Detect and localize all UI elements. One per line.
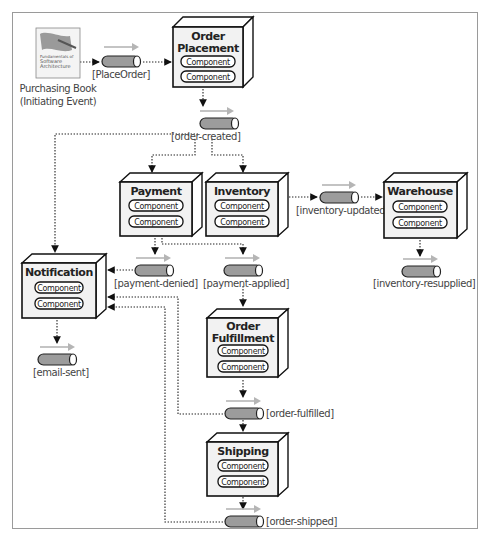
queue-inventory-resupplied: [inventory-resupplied] <box>373 255 476 289</box>
initiating-event-sublabel: (Initiating Event) <box>20 96 97 107</box>
queue-email-sent: [email-sent] <box>33 343 89 378</box>
event-label-inventory-resupplied: [inventory-resupplied] <box>373 278 476 289</box>
event-label-email-sent: [email-sent] <box>33 367 89 378</box>
queue-inventory-updated: [inventory-updated] <box>296 181 389 216</box>
component-label: Component <box>186 73 230 82</box>
component-label: Component <box>37 284 81 293</box>
queue-payment-denied: [payment-denied] <box>114 254 198 289</box>
component-label: Component <box>398 203 442 212</box>
processor-order-fulfillment: Order Fulfillment Component Component <box>207 309 288 377</box>
queue-order-created: [order-created] <box>171 107 241 142</box>
queue-place-order: [PlaceOrder] <box>92 43 151 80</box>
component-label: Component <box>220 218 264 227</box>
processor-notification: Notification Component Component <box>22 254 106 318</box>
queue-order-shipped: [order-shipped] <box>225 505 337 527</box>
processor-title: Inventory <box>214 185 270 198</box>
component-label: Component <box>134 218 178 227</box>
component-label: Component <box>221 363 265 372</box>
event-label-payment-denied: [payment-denied] <box>114 278 198 289</box>
processor-title-line2: Fulfillment <box>212 332 274 345</box>
processor-warehouse: Warehouse Component Component <box>384 173 467 238</box>
event-driven-broker-diagram: Fundamentals of Software Architecture Pu… <box>0 0 486 542</box>
initiating-event-label: Purchasing Book <box>20 83 97 94</box>
event-label-order-created: [order-created] <box>171 131 241 142</box>
processor-payment: Payment Component Component <box>120 173 202 236</box>
processor-title-line2: Placement <box>177 42 239 55</box>
queue-payment-applied: [payment-applied] <box>203 254 290 289</box>
processor-order-placement: Order Placement Component Component <box>173 17 253 87</box>
book-cover-line3: Architecture <box>40 63 71 69</box>
queue-order-fulfilled: [order-fulfilled] <box>225 397 334 419</box>
event-label-place-order: [PlaceOrder] <box>92 69 151 80</box>
component-label: Component <box>221 462 265 471</box>
component-label: Component <box>134 202 178 211</box>
processor-inventory: Inventory Component Component <box>206 173 288 236</box>
event-label-inventory-updated: [inventory-updated] <box>296 205 389 216</box>
processor-shipping: Shipping Component Component <box>207 433 288 496</box>
component-label: Component <box>186 58 230 67</box>
event-label-order-shipped: [order-shipped] <box>266 516 337 527</box>
processor-title: Notification <box>25 266 93 279</box>
processor-title: Shipping <box>217 445 269 458</box>
processor-title: Payment <box>130 185 181 198</box>
component-label: Component <box>221 478 265 487</box>
processor-title: Warehouse <box>387 185 453 198</box>
event-label-payment-applied: [payment-applied] <box>203 278 290 289</box>
initiating-event: Fundamentals of Software Architecture Pu… <box>20 28 97 107</box>
component-label: Component <box>37 300 81 309</box>
component-label: Component <box>221 347 265 356</box>
event-label-order-fulfilled: [order-fulfilled] <box>266 408 334 419</box>
component-label: Component <box>220 202 264 211</box>
component-label: Component <box>398 219 442 228</box>
